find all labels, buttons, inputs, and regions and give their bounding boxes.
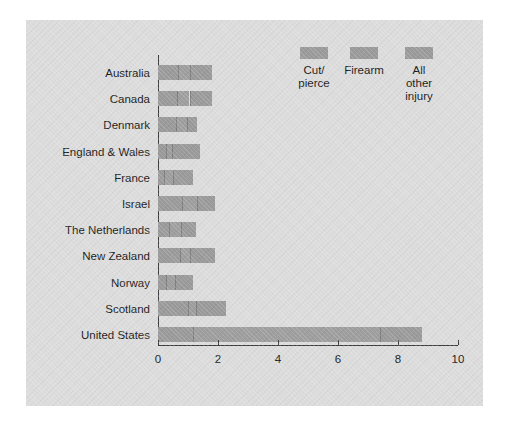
bar-row <box>158 248 215 263</box>
bar-row <box>158 327 422 342</box>
bar-row <box>158 275 193 290</box>
bar-segment <box>173 170 193 185</box>
bar-row <box>158 144 200 159</box>
legend-swatch-icon <box>350 47 378 59</box>
bar-segment <box>166 275 175 290</box>
bar-segment <box>175 275 193 290</box>
bar-segment <box>158 144 166 159</box>
bar-segment <box>158 222 169 237</box>
bar-segment <box>164 170 173 185</box>
x-axis-tick <box>218 340 219 345</box>
figure-panel: AustraliaCanadaDenmarkEngland & WalesFra… <box>26 20 483 406</box>
legend-item-cut-pierce[interactable]: Cut/ pierce <box>291 47 337 90</box>
plot-area: AustraliaCanadaDenmarkEngland & WalesFra… <box>26 20 483 406</box>
category-label: England & Wales <box>30 146 150 158</box>
legend-label: All other injury <box>396 64 442 103</box>
bar-row <box>158 301 226 316</box>
x-axis-tick <box>338 340 339 345</box>
bar-segment <box>158 275 166 290</box>
bar-segment <box>169 222 181 237</box>
legend-swatch-icon <box>405 47 433 59</box>
category-label: Norway <box>30 277 150 289</box>
bar-segment <box>178 65 190 80</box>
bar-segment <box>196 301 226 316</box>
bar-segment <box>158 327 193 342</box>
bar-row <box>158 117 197 132</box>
bar-segment <box>158 248 180 263</box>
bar-segment <box>158 65 178 80</box>
bar-segment <box>188 301 196 316</box>
bar-segment <box>177 91 190 106</box>
bar-segment <box>182 196 197 211</box>
bar-segment <box>197 196 215 211</box>
bar-segment <box>158 196 182 211</box>
bar-segment <box>193 327 381 342</box>
x-axis-tick-label: 2 <box>206 353 230 365</box>
bar-row <box>158 196 215 211</box>
bar-segment <box>176 117 187 132</box>
category-label: Denmark <box>30 119 150 131</box>
bar-segment <box>158 301 188 316</box>
category-label: Israel <box>30 198 150 210</box>
x-axis-line <box>158 345 458 346</box>
bar-row <box>158 91 212 106</box>
bar-segment <box>181 222 196 237</box>
category-label: Canada <box>30 93 150 105</box>
x-axis-tick <box>398 340 399 345</box>
bar-segment <box>190 65 213 80</box>
x-axis-tick-label: 8 <box>386 353 410 365</box>
category-label: Scotland <box>30 303 150 315</box>
category-label: Australia <box>30 67 150 79</box>
category-label: United States <box>30 329 150 341</box>
x-axis-tick-label: 10 <box>446 353 470 365</box>
x-axis-tick-label: 0 <box>146 353 170 365</box>
x-axis-tick <box>158 340 159 345</box>
legend-label: Cut/ pierce <box>291 64 337 90</box>
legend-item-all-other-injury[interactable]: All other injury <box>396 47 442 103</box>
bar-segment <box>190 91 213 106</box>
bar-row <box>158 170 193 185</box>
bar-segment <box>380 327 422 342</box>
bar-segment <box>190 248 215 263</box>
x-axis-tick-label: 4 <box>266 353 290 365</box>
legend-swatch-icon <box>300 47 328 59</box>
bar-segment <box>180 248 190 263</box>
category-label: The Netherlands <box>30 224 150 236</box>
bar-segment <box>172 144 201 159</box>
bar-segment <box>158 117 176 132</box>
legend-item-firearm[interactable]: Firearm <box>341 47 387 77</box>
category-label: New Zealand <box>30 250 150 262</box>
category-label: France <box>30 172 150 184</box>
legend-label: Firearm <box>341 64 387 77</box>
bar-segment <box>158 91 177 106</box>
bar-row <box>158 222 196 237</box>
x-axis-tick <box>458 340 459 345</box>
bar-segment <box>187 117 198 132</box>
bar-row <box>158 65 212 80</box>
x-axis-tick <box>278 340 279 345</box>
x-axis-tick-label: 6 <box>326 353 350 365</box>
